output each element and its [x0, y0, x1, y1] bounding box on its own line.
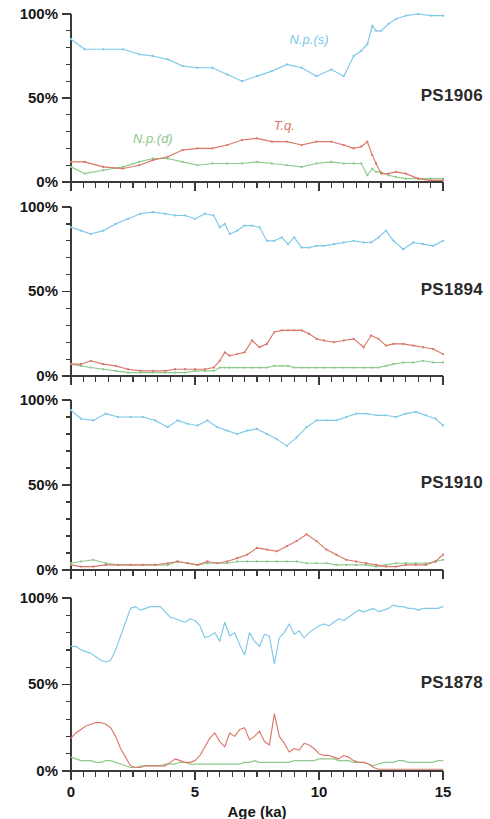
- series-point-tq: [281, 329, 283, 331]
- series-point-tq: [196, 564, 198, 566]
- series-point-tq: [224, 351, 226, 353]
- series-point-np_s: [380, 30, 382, 32]
- series-point-np_s: [216, 426, 218, 428]
- series-point-np_d: [343, 366, 345, 368]
- series-point-np_s: [335, 419, 337, 421]
- series-point-tq: [271, 141, 273, 143]
- series-point-tq: [181, 149, 183, 151]
- series-point-np_s: [243, 224, 245, 226]
- series-point-tq: [229, 355, 231, 357]
- x-axis-tick-label: 0: [67, 783, 75, 800]
- series-point-np_s: [353, 55, 355, 57]
- series-point-np_d: [92, 559, 94, 561]
- series-line-np_s: [71, 212, 443, 249]
- series-point-tq: [370, 334, 372, 336]
- series-point-np_d: [273, 365, 275, 367]
- series-point-np_s: [194, 218, 196, 220]
- series-point-tq: [330, 141, 332, 143]
- chart-panel-ps1910: 0%50%100%PS1910: [20, 391, 483, 579]
- series-point-np_s: [385, 414, 387, 416]
- series-point-tq: [70, 363, 72, 365]
- series-point-np_d: [276, 560, 278, 562]
- series-point-np_s: [375, 30, 377, 32]
- series-point-np_s: [387, 23, 389, 25]
- series-point-np_s: [377, 236, 379, 238]
- series-point-np_d: [360, 162, 362, 164]
- series-point-tq: [395, 565, 397, 567]
- series-point-tq: [360, 146, 362, 148]
- series-point-np_d: [219, 366, 221, 368]
- y-axis-tick-label: 100%: [20, 589, 58, 606]
- series-point-np_s: [371, 25, 373, 27]
- series-point-tq: [434, 560, 436, 562]
- series-point-np_s: [176, 419, 178, 421]
- series-point-tq: [138, 164, 140, 166]
- series-point-np_d: [258, 366, 260, 368]
- series-point-tq: [256, 547, 258, 549]
- series-point-np_d: [370, 366, 372, 368]
- chart-panel-ps1906: 0%50%100%PS1906N.p.(s)N.p.(d)T.q.: [20, 5, 483, 191]
- series-point-np_s: [300, 67, 302, 69]
- series-point-tq: [300, 144, 302, 146]
- series-point-np_s: [395, 416, 397, 418]
- panel-title-ps1910: PS1910: [421, 473, 483, 492]
- series-point-tq: [70, 564, 72, 566]
- series-point-np_s: [405, 412, 407, 414]
- series-point-tq: [216, 562, 218, 564]
- series-annotation-tq: T.q.: [274, 118, 295, 133]
- series-point-tq: [315, 540, 317, 542]
- series-point-np_s: [412, 241, 414, 243]
- series-point-tq: [102, 166, 104, 168]
- series-point-np_d: [256, 161, 258, 163]
- series-point-np_s: [241, 80, 243, 82]
- series-point-tq: [83, 161, 85, 163]
- series-point-tq: [442, 554, 444, 556]
- series-point-np_d: [251, 366, 253, 368]
- series-point-np_s: [105, 412, 107, 414]
- series-point-tq: [164, 370, 166, 372]
- series-point-np_d: [323, 366, 325, 368]
- series-point-tq: [167, 156, 169, 158]
- y-axis-tick-label: 100%: [20, 198, 58, 215]
- series-point-tq: [402, 343, 404, 345]
- series-point-tq: [323, 339, 325, 341]
- series-point-np_s: [164, 213, 166, 215]
- series-point-tq: [325, 548, 327, 550]
- series-point-np_s: [83, 48, 85, 50]
- series-point-tq: [343, 339, 345, 341]
- series-point-np_s: [92, 419, 94, 421]
- series-point-np_s: [333, 243, 335, 245]
- series-point-np_d: [174, 371, 176, 373]
- series-point-tq: [154, 564, 156, 566]
- series-point-np_s: [422, 243, 424, 245]
- series-point-np_s: [345, 416, 347, 418]
- series-point-np_s: [330, 68, 332, 70]
- series-point-np_d: [80, 560, 82, 562]
- series-point-np_d: [236, 366, 238, 368]
- series-point-np_d: [402, 361, 404, 363]
- series-point-np_d: [308, 366, 310, 368]
- series-line-tq: [71, 330, 443, 371]
- panel-title-ps1878: PS1878: [421, 673, 483, 692]
- series-point-np_s: [362, 241, 364, 243]
- series-point-np_d: [442, 361, 444, 363]
- series-point-np_d: [362, 366, 364, 368]
- series-point-np_s: [139, 213, 141, 215]
- series-point-np_d: [114, 370, 116, 372]
- series-point-np_s: [305, 426, 307, 428]
- series-point-np_s: [70, 409, 72, 411]
- series-point-np_s: [226, 429, 228, 431]
- series-point-np_d: [236, 560, 238, 562]
- series-point-np_d: [196, 164, 198, 166]
- series-point-tq: [355, 560, 357, 562]
- series-point-np_s: [138, 53, 140, 55]
- series-point-np_d: [241, 162, 243, 164]
- series-point-np_s: [102, 48, 104, 50]
- series-point-np_s: [276, 438, 278, 440]
- x-axis-tick-label: 15: [435, 783, 452, 800]
- series-point-tq: [424, 564, 426, 566]
- series-point-np_s: [375, 414, 377, 416]
- series-point-tq: [415, 564, 417, 566]
- series-point-np_s: [206, 419, 208, 421]
- series-point-np_s: [273, 240, 275, 242]
